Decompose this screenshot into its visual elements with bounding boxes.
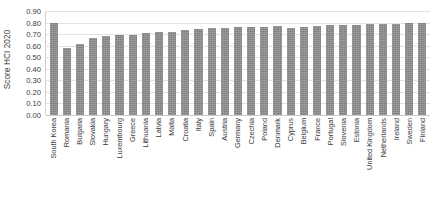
bar <box>287 28 295 115</box>
y-axis-tick-label: 0.00 <box>26 111 41 120</box>
bar <box>142 33 150 115</box>
y-axis-tick-label: 0.30 <box>26 76 41 85</box>
bar <box>234 27 242 115</box>
bar <box>260 27 268 115</box>
x-label-slot: Czechia <box>244 116 257 212</box>
y-axis-tick-label: 0.60 <box>26 41 41 50</box>
x-label-slot: Lithuania <box>138 116 151 212</box>
x-label-slot: Greece <box>125 116 138 212</box>
y-axis-tick-label: 0.20 <box>26 87 41 96</box>
bar-slot <box>205 11 218 115</box>
y-axis-title: Score HCI 2020 <box>0 0 16 118</box>
bar <box>89 38 97 115</box>
x-axis-tick-label: Belgium <box>299 118 308 144</box>
x-axis-tick-label: Slovenia <box>339 118 348 146</box>
bar-slot <box>245 11 258 115</box>
x-label-slot: Luxembourg <box>112 116 125 212</box>
bar-slot <box>363 11 376 115</box>
x-axis-tick-label: Malta <box>167 118 176 136</box>
x-axis-tick-label: Latvia <box>154 118 163 137</box>
y-axis-tick-label: 0.80 <box>26 18 41 27</box>
bar-slot <box>47 11 60 115</box>
x-axis-tick-label: Slovakia <box>88 118 97 146</box>
x-label-slot: Estonia <box>350 116 363 212</box>
x-label-slot: Netherlands <box>376 116 389 212</box>
bar <box>208 28 216 115</box>
bar-slot <box>218 11 231 115</box>
y-axis-tick-label: 0.10 <box>26 99 41 108</box>
bar-slot <box>258 11 271 115</box>
x-axis-tick-label: France <box>312 118 321 141</box>
bar <box>300 27 308 115</box>
y-axis-tick-labels: 0.900.800.700.600.500.400.300.200.100.00 <box>16 0 43 118</box>
bar <box>273 26 281 115</box>
bar <box>326 25 334 115</box>
bar-slot <box>310 11 323 115</box>
bar <box>313 26 321 115</box>
x-axis-tick-label: Estonia <box>352 118 361 142</box>
bar-slot <box>166 11 179 115</box>
bar <box>63 48 71 115</box>
bar-slot <box>376 11 389 115</box>
x-label-slot: Belgium <box>297 116 310 212</box>
x-axis-tick-label: South Korea <box>48 118 57 159</box>
x-axis-tick-label: Luxembourg <box>114 118 123 159</box>
bar <box>221 28 229 115</box>
bar-chart: Score HCI 2020 0.900.800.700.600.500.400… <box>0 0 434 213</box>
bar-slot <box>337 11 350 115</box>
x-axis-tick-label: Bulgaria <box>75 118 84 145</box>
x-axis-category-labels: South KoreaRomaniaBulgariaSlovakiaHungar… <box>45 116 430 212</box>
bar-slot <box>60 11 73 115</box>
x-axis-tick-label: Croatia <box>180 118 189 141</box>
plot-area <box>45 11 430 115</box>
x-label-slot: Portugal <box>323 116 336 212</box>
x-axis-tick-label: Czechia <box>246 118 255 144</box>
y-axis-tick-label: 0.50 <box>26 53 41 62</box>
bar-slot <box>416 11 429 115</box>
bar-slot <box>113 11 126 115</box>
bar <box>115 35 123 115</box>
bar-slot <box>350 11 363 115</box>
x-label-slot: Malta <box>165 116 178 212</box>
x-axis-tick-label: Austria <box>220 118 229 141</box>
bar-slot <box>271 11 284 115</box>
x-axis-tick-label: Finland <box>418 118 427 142</box>
y-axis-title-text: Score HCI 2020 <box>4 29 13 89</box>
x-label-slot: Slovakia <box>86 116 99 212</box>
bars-layer <box>46 11 430 115</box>
bar-slot <box>139 11 152 115</box>
x-label-slot: Germany <box>231 116 244 212</box>
x-axis-tick-label: Romania <box>61 118 70 147</box>
bar <box>379 24 387 115</box>
bar <box>181 30 189 115</box>
x-axis-tick-label: Greece <box>127 118 136 142</box>
x-label-slot: Ireland <box>389 116 402 212</box>
x-label-slot: Austria <box>218 116 231 212</box>
bar-slot <box>87 11 100 115</box>
x-axis-tick-label: Portugal <box>325 118 334 145</box>
x-label-slot: Denmark <box>270 116 283 212</box>
y-axis-tick-label: 0.90 <box>26 7 41 16</box>
x-axis-tick-label: Lithuania <box>141 118 150 148</box>
bar <box>155 32 163 115</box>
x-label-slot: Finland <box>416 116 429 212</box>
bar-slot <box>324 11 337 115</box>
bar <box>76 44 84 115</box>
x-axis-tick-label: Denmark <box>273 118 282 148</box>
x-axis-tick-label: Netherlands <box>378 118 387 157</box>
x-label-slot: Romania <box>59 116 72 212</box>
x-axis-tick-label: Hungary <box>101 118 110 146</box>
bar-slot <box>73 11 86 115</box>
bar-slot <box>100 11 113 115</box>
x-label-slot: Hungary <box>99 116 112 212</box>
bar-slot <box>389 11 402 115</box>
bar <box>102 36 110 115</box>
bar-slot <box>403 11 416 115</box>
x-label-slot: Sweden <box>402 116 415 212</box>
bar <box>50 23 58 115</box>
bar <box>247 27 255 115</box>
x-label-slot: Croatia <box>178 116 191 212</box>
y-axis-tick-label: 0.70 <box>26 30 41 39</box>
bar-slot <box>126 11 139 115</box>
x-axis-tick-label: Cyprus <box>286 118 295 141</box>
